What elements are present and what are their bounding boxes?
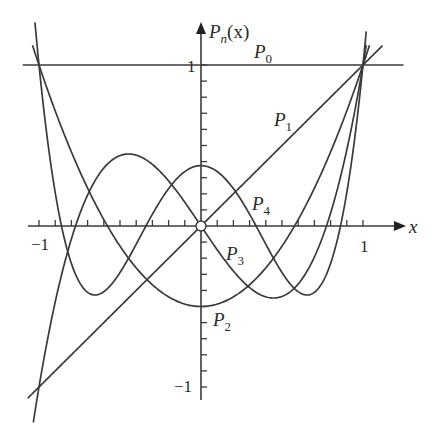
y-tick-label-neg1: −1 [174, 377, 192, 396]
y-axis-label: Pn(x) [208, 21, 249, 46]
label-p2: P2 [212, 309, 231, 334]
y-axis-arrow-icon [196, 22, 206, 34]
origin-marker [196, 221, 206, 231]
curve-p3 [33, 45, 366, 422]
label-p4: P4 [251, 193, 271, 218]
y-tick-label-1: 1 [187, 57, 196, 76]
x-axis-arrow-icon [394, 221, 406, 231]
label-p1: P1 [273, 109, 292, 134]
legendre-polynomials-plot: Pn(x) x −1 1 1 −1 P0 P1 P4 P3 P2 [0, 0, 438, 426]
x-tick-label-neg1: −1 [31, 235, 49, 254]
curve-p1 [28, 46, 383, 399]
x-tick-label-1: 1 [360, 237, 369, 256]
label-p0: P0 [253, 41, 272, 66]
x-axis-label: x [408, 216, 418, 237]
